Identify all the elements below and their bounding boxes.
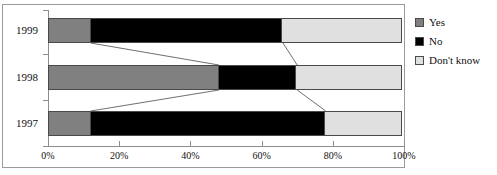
bar-segment-1997-yes xyxy=(48,111,91,136)
bar-segment-1999-no xyxy=(90,18,282,43)
x-tick-40pct xyxy=(190,141,191,147)
x-tick-label: 0% xyxy=(28,150,68,162)
y-tick xyxy=(43,100,49,101)
legend-item-label: Yes xyxy=(429,16,445,29)
bar-segment-1997-don-t-know xyxy=(324,111,402,136)
x-tick-label: 80% xyxy=(313,150,353,162)
y-tick-label-1997: 1997 xyxy=(0,117,38,130)
legend-swatch-icon xyxy=(415,37,424,46)
legend-swatch-icon xyxy=(415,18,424,27)
x-tick-label: 20% xyxy=(99,150,139,162)
x-axis-line xyxy=(48,146,405,147)
x-tick-20pct xyxy=(119,141,120,147)
legend-item-don-t-know[interactable]: Don't know xyxy=(415,51,495,70)
bar-segment-1997-no xyxy=(90,111,325,136)
y-tick xyxy=(43,10,49,11)
bar-segment-1998-don-t-know xyxy=(295,65,402,90)
x-tick-100pct xyxy=(404,141,405,147)
y-tick-label-1999: 1999 xyxy=(0,24,38,37)
y-tick xyxy=(43,54,49,55)
bar-1999 xyxy=(48,18,404,43)
chart-container: 0%20%40%60%80%100% 199919981997 YesNoDon… xyxy=(0,0,497,175)
y-tick xyxy=(43,146,49,147)
x-tick-label: 60% xyxy=(242,150,282,162)
x-tick-label: 40% xyxy=(170,150,210,162)
legend-item-label: Don't know xyxy=(429,54,480,67)
bar-segment-1999-yes xyxy=(48,18,91,43)
y-tick-label-1998: 1998 xyxy=(0,71,38,84)
x-tick-label: 100% xyxy=(384,150,424,162)
x-tick-60pct xyxy=(262,141,263,147)
bar-1998 xyxy=(48,65,404,90)
legend-item-no[interactable]: No xyxy=(415,32,495,51)
bar-segment-1999-don-t-know xyxy=(281,18,402,43)
chart-legend: YesNoDon't know xyxy=(415,13,495,70)
legend-swatch-icon xyxy=(415,56,424,65)
legend-item-label: No xyxy=(429,35,442,48)
bar-segment-1998-yes xyxy=(48,65,219,90)
bar-1997 xyxy=(48,111,404,136)
legend-item-yes[interactable]: Yes xyxy=(415,13,495,32)
bar-segment-1998-no xyxy=(218,65,296,90)
x-tick-80pct xyxy=(333,141,334,147)
